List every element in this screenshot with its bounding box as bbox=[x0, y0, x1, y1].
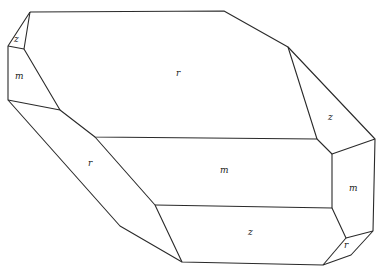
edge-z-right bbox=[317, 139, 375, 154]
label-m-left: m bbox=[15, 71, 24, 81]
label-z-right: z bbox=[327, 112, 333, 122]
crystal-diagram: z m r z r m m z r bbox=[0, 0, 384, 275]
edge-r-top bbox=[60, 47, 317, 139]
label-r-left: r bbox=[88, 158, 93, 168]
label-z-bottom: z bbox=[247, 227, 253, 237]
label-r-bottom-right: r bbox=[344, 240, 349, 250]
edge-m-right bbox=[332, 208, 373, 238]
edge-r-left bbox=[95, 137, 182, 262]
label-m-right: m bbox=[349, 183, 358, 193]
label-z-top-left: z bbox=[13, 34, 19, 44]
label-r-top: r bbox=[176, 68, 181, 78]
edge-m-center bbox=[155, 154, 332, 208]
label-m-center: m bbox=[220, 165, 229, 175]
